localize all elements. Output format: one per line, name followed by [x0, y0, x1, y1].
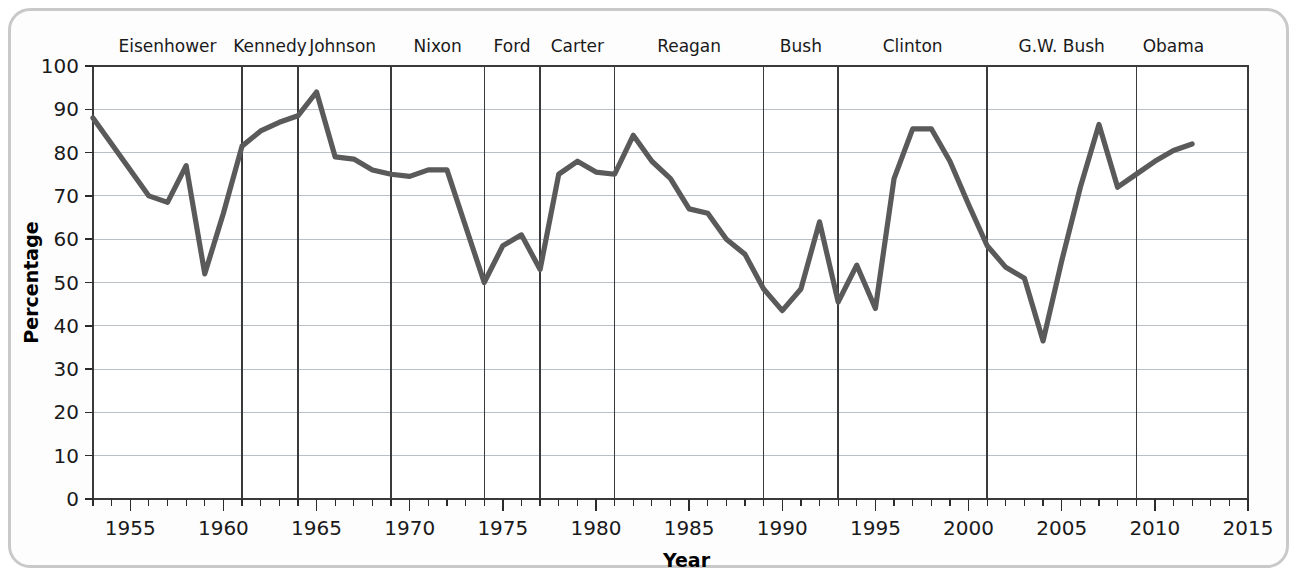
- y-tick-label: 90: [54, 97, 79, 121]
- plot-region: 0102030405060708090100195519601965197019…: [0, 0, 1305, 587]
- y-tick-label: 70: [54, 184, 79, 208]
- x-axis-title: Year: [662, 549, 711, 571]
- x-tick-label: 1965: [291, 516, 342, 540]
- era-label-ford: Ford: [494, 36, 531, 56]
- figure-container: 0102030405060708090100195519601965197019…: [0, 0, 1305, 587]
- y-axis-title: Percentage: [20, 221, 42, 343]
- y-tick-label: 80: [54, 141, 79, 165]
- y-tick-label: 30: [54, 357, 79, 381]
- era-label-nixon: Nixon: [414, 36, 462, 56]
- era-label-clinton: Clinton: [883, 36, 943, 56]
- y-tick-label: 20: [54, 400, 79, 424]
- era-label-g-w-bush: G.W. Bush: [1019, 36, 1105, 56]
- x-tick-label: 2000: [943, 516, 994, 540]
- era-label-kennedy: Kennedy: [233, 36, 307, 56]
- x-tick-label: 1980: [571, 516, 622, 540]
- x-tick-label: 1975: [477, 516, 528, 540]
- y-tick-label: 40: [54, 314, 79, 338]
- x-tick-label: 2010: [1129, 516, 1180, 540]
- x-tick-label: 1985: [664, 516, 715, 540]
- era-label-obama: Obama: [1143, 36, 1205, 56]
- x-tick-label: 1955: [105, 516, 156, 540]
- y-tick-label: 60: [54, 227, 79, 251]
- era-label-eisenhower: Eisenhower: [118, 36, 216, 56]
- y-tick-label: 100: [41, 54, 79, 78]
- era-label-bush: Bush: [780, 36, 822, 56]
- era-label-johnson: Johnson: [308, 36, 376, 56]
- line-chart: 0102030405060708090100195519601965197019…: [0, 0, 1305, 587]
- x-tick-label: 1970: [384, 516, 435, 540]
- y-tick-label: 50: [54, 271, 79, 295]
- x-tick-label: 1960: [198, 516, 249, 540]
- x-tick-label: 1990: [757, 516, 808, 540]
- era-label-reagan: Reagan: [657, 36, 721, 56]
- x-tick-label: 1995: [850, 516, 901, 540]
- y-tick-label: 10: [54, 444, 79, 468]
- y-tick-label: 0: [66, 487, 79, 511]
- x-tick-label: 2005: [1036, 516, 1087, 540]
- x-tick-label: 2015: [1223, 516, 1274, 540]
- era-label-carter: Carter: [551, 36, 604, 56]
